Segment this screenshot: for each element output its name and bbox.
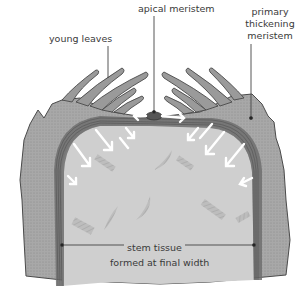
label-primary-line1: primary <box>234 6 306 18</box>
label-young-leaves: young leaves <box>49 33 112 45</box>
label-formed-at-final-width: formed at final width <box>110 257 209 268</box>
label-apical-meristem: apical meristem <box>138 3 215 15</box>
label-primary-line2: thickening <box>234 18 306 30</box>
label-primary-line3: meristem <box>234 30 306 42</box>
label-primary-thickening-meristem: primary thickening meristem <box>234 6 306 42</box>
label-stem-tissue: stem tissue <box>124 242 185 253</box>
